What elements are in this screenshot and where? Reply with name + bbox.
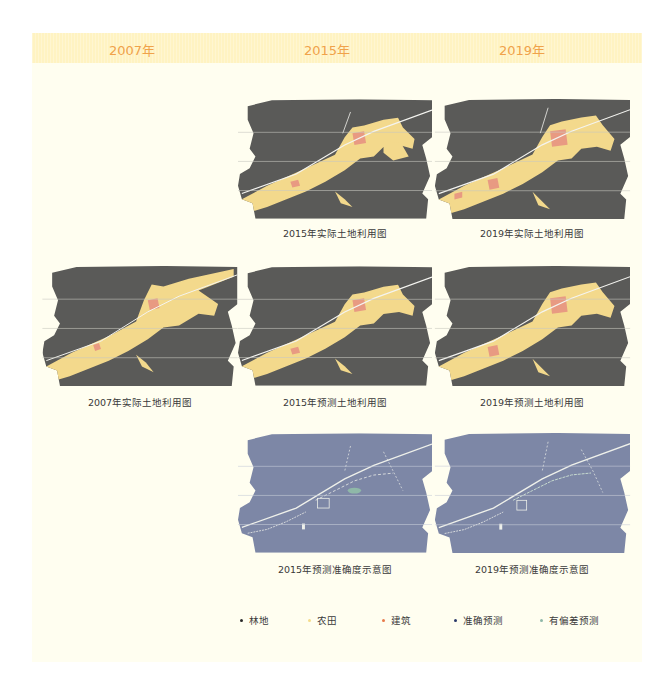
legend-item-farmland: 农田 <box>308 613 337 627</box>
accurate-swatch-icon <box>454 619 457 622</box>
caption-2019-predicted: 2019年预测土地利用图 <box>432 395 632 409</box>
legend-item-deviation: 有偏差预测 <box>540 613 599 627</box>
map-2015-accuracy <box>238 432 432 554</box>
caption-2019-actual: 2019年实际土地利用图 <box>432 226 632 240</box>
building-swatch-icon <box>382 619 385 622</box>
caption-2007-actual: 2007年实际土地利用图 <box>40 395 240 409</box>
year-header: 2007年 2015年 2019年 <box>32 33 642 63</box>
legend-label: 建筑 <box>391 615 411 626</box>
forest-swatch-icon <box>240 619 243 622</box>
caption-2015-predicted: 2015年预测土地利用图 <box>235 395 435 409</box>
legend-item-building: 建筑 <box>382 613 411 627</box>
map-2019-predicted <box>433 265 632 387</box>
legend-label: 准确预测 <box>463 615 503 626</box>
deviation-swatch-icon <box>540 619 543 622</box>
year-label-2019: 2019年 <box>462 40 582 59</box>
year-label-2007: 2007年 <box>72 40 192 59</box>
map-2019-actual <box>433 98 632 220</box>
map-2015-predicted <box>238 265 432 387</box>
legend-item-forest: 林地 <box>240 613 269 627</box>
legend-label: 林地 <box>249 615 269 626</box>
figure-panel: 2007年 2015年 2019年 2015年实际土地利用图 <box>32 33 642 662</box>
legend-label: 有偏差预测 <box>549 615 599 626</box>
farmland-swatch-icon <box>308 619 311 622</box>
caption-2015-actual: 2015年实际土地利用图 <box>235 226 435 240</box>
legend-label: 农田 <box>317 615 337 626</box>
legend: 林地 农田 建筑 准确预测 有偏差预测 <box>32 613 642 629</box>
legend-item-accurate: 准确预测 <box>454 613 503 627</box>
map-2015-actual <box>238 98 432 220</box>
caption-2015-accuracy: 2015年预测准确度示意图 <box>235 562 435 576</box>
map-2019-accuracy <box>433 432 632 554</box>
year-label-2015: 2015年 <box>267 40 387 59</box>
caption-2019-accuracy: 2019年预测准确度示意图 <box>432 562 632 576</box>
map-2007-actual <box>40 265 240 387</box>
